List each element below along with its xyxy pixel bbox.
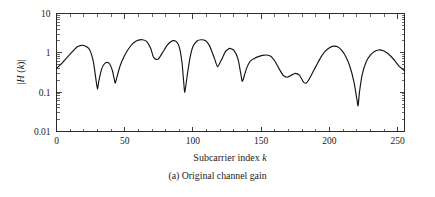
y-axis-title: |H (k)|	[15, 60, 27, 85]
y-tick-label: 10	[41, 9, 51, 19]
x-tick-label: 250	[391, 136, 406, 146]
x-tick-label: 0	[54, 136, 59, 146]
x-tick-label: 150	[254, 136, 269, 146]
x-axis-title: Subcarrier index k	[193, 152, 267, 163]
plot-frame	[57, 14, 405, 132]
x-tick-label: 50	[120, 136, 130, 146]
x-axis-ticks	[57, 14, 398, 132]
x-axis-tick-labels: 050100150200250	[54, 136, 405, 146]
y-axis-ticks	[57, 14, 405, 132]
figure-container: 050100150200250 0.010.1110 Subcarrier in…	[0, 0, 435, 197]
y-tick-label: 0.01	[34, 127, 51, 137]
x-tick-label: 100	[186, 136, 201, 146]
figure-caption: (a) Original channel gain	[0, 170, 435, 181]
x-tick-label: 200	[322, 136, 337, 146]
y-tick-label: 0.1	[39, 88, 51, 98]
y-tick-label: 1	[46, 48, 51, 58]
data-series-line	[57, 40, 405, 106]
y-axis-tick-labels: 0.010.1110	[34, 9, 51, 137]
channel-gain-chart: 050100150200250 0.010.1110 Subcarrier in…	[0, 0, 435, 197]
